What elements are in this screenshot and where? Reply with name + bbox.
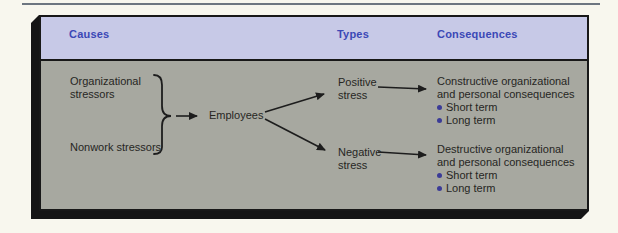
type-negative-stress: Negative stress xyxy=(338,146,381,172)
bullet-icon xyxy=(437,105,442,110)
arrow-to-destructive-icon xyxy=(378,152,426,155)
consequence-line-2: and personal consequences xyxy=(437,88,575,101)
bullet-label: Long term xyxy=(446,182,496,195)
bullet-label: Short term xyxy=(446,101,497,114)
arrow-to-constructive-icon xyxy=(378,87,426,89)
top-rule xyxy=(22,3,600,5)
bullet-label: Long term xyxy=(446,114,496,127)
bullet-row: Long term xyxy=(437,114,575,127)
hub-employees: Employees xyxy=(209,109,263,122)
bullet-icon xyxy=(437,118,442,123)
consequence-constructive: Constructive organizational and personal… xyxy=(437,75,575,127)
figure-panel: Causes Types Consequences Organizational… xyxy=(39,15,589,211)
cause-nonwork-stressors: Nonwork stressors xyxy=(70,141,161,154)
type-line-1: Negative xyxy=(338,146,381,159)
bullet-row: Short term xyxy=(437,169,575,182)
consequence-line-1: Constructive organizational xyxy=(437,75,575,88)
type-line-1: Positive xyxy=(338,76,377,89)
bullet-label: Short term xyxy=(446,169,497,182)
arrow-to-positive-icon xyxy=(265,94,324,112)
consequence-line-1: Destructive organizational xyxy=(437,143,575,156)
cause-line-2: stressors xyxy=(70,88,141,101)
bullet-icon xyxy=(437,186,442,191)
type-line-2: stress xyxy=(338,89,377,102)
type-line-2: stress xyxy=(338,159,381,172)
consequence-destructive: Destructive organizational and personal … xyxy=(437,143,575,195)
cause-line-1: Organizational xyxy=(70,75,141,88)
bullet-icon xyxy=(437,173,442,178)
figure-canvas: Causes Types Consequences Organizational… xyxy=(0,0,618,233)
cause-organizational-stressors: Organizational stressors xyxy=(70,75,141,101)
type-positive-stress: Positive stress xyxy=(338,76,377,102)
bullet-row: Short term xyxy=(437,101,575,114)
bullet-row: Long term xyxy=(437,182,575,195)
consequence-line-2: and personal consequences xyxy=(437,156,575,169)
arrow-to-negative-icon xyxy=(265,119,325,150)
